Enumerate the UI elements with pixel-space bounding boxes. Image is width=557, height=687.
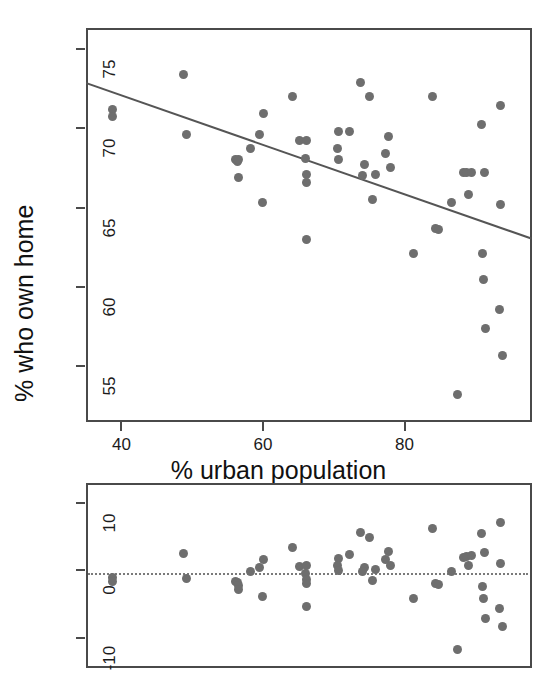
scatter-y-tick-label: 60 <box>100 287 120 327</box>
residual-y-tick-label: 0 <box>100 570 120 610</box>
data-point <box>434 225 443 234</box>
data-point <box>288 92 297 101</box>
scatter-y-tick-mark <box>76 365 85 367</box>
residual-point <box>345 550 354 559</box>
data-point <box>345 127 354 136</box>
data-point <box>498 351 507 360</box>
residual-point <box>356 528 365 537</box>
data-point <box>108 112 117 121</box>
data-point <box>259 109 268 118</box>
data-point <box>365 92 374 101</box>
data-point <box>428 92 437 101</box>
residual-point <box>464 561 473 570</box>
residual-point <box>302 579 311 588</box>
data-point <box>258 198 267 207</box>
residual-point <box>467 551 476 560</box>
scatter-x-tick-mark <box>120 422 122 431</box>
data-point <box>334 127 343 136</box>
data-point <box>356 78 365 87</box>
residual-point <box>302 602 311 611</box>
data-point <box>234 173 243 182</box>
y-axis-label: % who own home <box>10 205 39 402</box>
data-point <box>447 198 456 207</box>
data-point <box>496 101 505 110</box>
data-point <box>302 178 311 187</box>
residual-point <box>182 574 191 583</box>
data-point <box>302 136 311 145</box>
data-point <box>358 171 367 180</box>
residual-point <box>234 585 243 594</box>
scatter-x-tick-label: 80 <box>385 435 425 455</box>
data-point <box>496 200 505 209</box>
data-point <box>334 155 343 164</box>
residual-y-tick-label: 10 <box>100 503 120 543</box>
x-axis-label: % urban population <box>0 456 557 485</box>
scatter-data-area <box>86 28 532 422</box>
residual-point <box>358 567 367 576</box>
scatter-y-tick-label: 55 <box>100 366 120 406</box>
residual-point <box>479 594 488 603</box>
data-point <box>467 168 476 177</box>
scatter-y-tick-mark <box>76 286 85 288</box>
data-point <box>480 168 489 177</box>
data-point <box>360 160 369 169</box>
residual-point <box>409 594 418 603</box>
residual-point <box>259 555 268 564</box>
data-point <box>246 144 255 153</box>
data-point <box>381 149 390 158</box>
data-point <box>384 132 393 141</box>
residual-y-tick-mark <box>76 569 85 571</box>
residual-point <box>179 549 188 558</box>
scatter-x-tick-mark <box>404 422 406 431</box>
data-point <box>481 324 490 333</box>
residual-point <box>495 604 504 613</box>
scatter-y-tick-mark <box>76 48 85 50</box>
data-point <box>495 305 504 314</box>
residual-point <box>477 529 486 538</box>
residual-y-tick-label: -10 <box>100 638 120 678</box>
residual-point <box>447 567 456 576</box>
data-point <box>477 120 486 129</box>
residual-point <box>365 533 374 542</box>
scatter-x-tick-label: 60 <box>243 435 283 455</box>
residual-data-area <box>86 483 532 668</box>
data-point <box>255 130 264 139</box>
residual-point <box>453 645 462 654</box>
residual-y-tick-mark <box>76 502 85 504</box>
residual-point <box>496 518 505 527</box>
data-point <box>453 390 462 399</box>
residual-point <box>481 614 490 623</box>
residual-point <box>258 592 267 601</box>
data-point <box>409 249 418 258</box>
residual-point <box>386 561 395 570</box>
residual-point <box>428 524 437 533</box>
data-point <box>182 130 191 139</box>
data-point <box>386 163 395 172</box>
data-point <box>234 155 243 164</box>
scatter-y-tick-mark <box>76 207 85 209</box>
scatter-y-tick-label: 75 <box>100 49 120 89</box>
residual-point <box>498 622 507 631</box>
scatter-x-tick-mark <box>262 422 264 431</box>
residual-point <box>478 582 487 591</box>
data-point <box>478 249 487 258</box>
scatter-y-tick-label: 65 <box>100 208 120 248</box>
data-point <box>302 235 311 244</box>
data-point <box>371 170 380 179</box>
scatter-x-tick-label: 40 <box>101 435 141 455</box>
residual-point <box>496 559 505 568</box>
residual-point <box>368 576 377 585</box>
data-point <box>179 70 188 79</box>
residual-y-tick-mark <box>76 637 85 639</box>
data-point <box>333 144 342 153</box>
data-point <box>479 275 488 284</box>
scatter-y-tick-mark <box>76 127 85 129</box>
residual-point <box>288 543 297 552</box>
residual-point <box>480 548 489 557</box>
scatter-y-tick-label: 70 <box>100 128 120 168</box>
data-point <box>464 190 473 199</box>
residual-point <box>434 580 443 589</box>
data-point <box>301 154 310 163</box>
figure-container: 5560657075 406080 % who own home % urban… <box>0 0 557 687</box>
data-point <box>368 195 377 204</box>
